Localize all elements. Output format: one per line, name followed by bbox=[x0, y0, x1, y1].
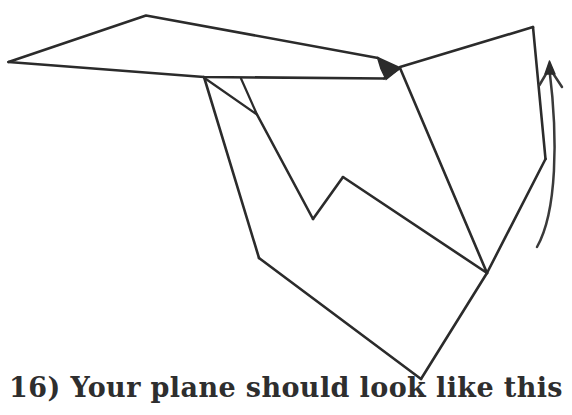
nose-wedge bbox=[378, 58, 401, 80]
center-crease bbox=[257, 115, 313, 220]
instruction-page: 16) Your plane should look like this bbox=[0, 0, 572, 415]
nose-to-body-edge bbox=[400, 68, 487, 273]
body-bottom-right-edge bbox=[421, 273, 487, 379]
fin-lower-edge bbox=[487, 159, 546, 273]
paper-plane-illustration bbox=[0, 0, 572, 415]
fuselage-left-fold bbox=[204, 77, 259, 258]
left-wing-bottom-edge bbox=[9, 62, 385, 79]
valley-right-edge bbox=[313, 177, 343, 219]
fin-right-edge bbox=[533, 27, 546, 159]
body-bottom-left-edge bbox=[259, 258, 421, 379]
left-wing-top-edge bbox=[9, 16, 379, 63]
step-caption: 16) Your plane should look like this bbox=[0, 372, 572, 403]
motion-arrow-head-tip bbox=[545, 61, 555, 74]
fin-top-edge bbox=[400, 27, 533, 67]
